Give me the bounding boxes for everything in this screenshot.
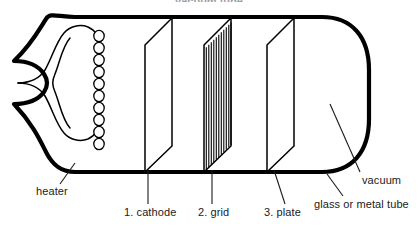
grid-electrode (204, 18, 231, 172)
heater-coil-loop (94, 102, 104, 113)
heater-coil-loop (94, 138, 104, 149)
cathode-plate (145, 18, 172, 172)
heater-coil-loop (94, 78, 104, 89)
label-cathode: 1. cathode (124, 207, 176, 218)
cathode-electrode (145, 18, 172, 172)
label-heater: heater (36, 186, 68, 197)
anode-plate (267, 18, 294, 172)
heater-coil-loop (94, 126, 104, 137)
heater-coil-loop (94, 66, 104, 77)
heater-coil-loop (94, 54, 104, 65)
label-grid: 2. grid (198, 207, 229, 218)
tube-envelope (14, 15, 369, 172)
leader-line-envelope (327, 174, 343, 196)
tube-envelope-outline (14, 15, 369, 172)
plate-electrode (267, 18, 294, 172)
heater-coil-loop (94, 114, 104, 125)
label-envelope: glass or metal tube (314, 199, 409, 210)
label-plate: 3. plate (264, 207, 301, 218)
vacuum-tube-figure: vacuum tube (0, 0, 418, 232)
grid-plate (204, 18, 231, 172)
label-vacuum: vacuum (362, 175, 401, 186)
heater-coil-loop (94, 30, 104, 41)
heater-coil-loop (94, 42, 104, 53)
leader-line-plate (274, 170, 285, 204)
heater-coil-loop (94, 90, 104, 101)
